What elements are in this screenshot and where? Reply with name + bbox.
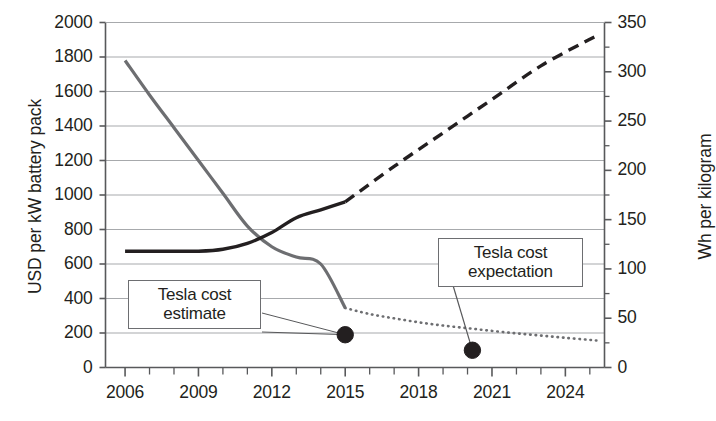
x-axis-tick-label: 2012 xyxy=(237,382,307,403)
x-axis-tick-label: 2009 xyxy=(163,382,233,403)
y-axis-left-tick-label: 0 xyxy=(33,357,93,378)
series-line-0 xyxy=(125,60,345,308)
y-axis-left-tick-label: 600 xyxy=(33,253,93,274)
y-axis-left-tick-label: 1400 xyxy=(33,115,93,136)
y-axis-right-tick-label: 150 xyxy=(618,209,678,230)
annotation-estimate-line1: Tesla cost xyxy=(136,285,253,304)
annotation-expectation-line1: Tesla cost xyxy=(446,243,575,262)
y-axis-right-tick-label: 50 xyxy=(618,307,678,328)
y-axis-right-tick-label: 0 xyxy=(618,357,678,378)
y-axis-left-tick-label: 1600 xyxy=(33,81,93,102)
data-point-tesla-cost-estimate xyxy=(337,327,353,343)
x-axis-tick-label: 2024 xyxy=(530,382,600,403)
annotation-tesla-cost-expectation: Tesla cost expectation xyxy=(438,238,583,287)
leader-line-estimate-upper xyxy=(262,313,345,335)
leader-line-expectation xyxy=(452,282,472,350)
y-axis-left-tick-label: 200 xyxy=(33,322,93,343)
x-axis-tick-label: 2021 xyxy=(457,382,527,403)
series-line-3 xyxy=(345,36,597,202)
y-axis-right-tick-label: 350 xyxy=(618,12,678,33)
y-axis-left-tick-label: 400 xyxy=(33,288,93,309)
y-axis-right-tick-label: 250 xyxy=(618,110,678,131)
y-axis-left-tick-label: 800 xyxy=(33,219,93,240)
annotation-tesla-cost-estimate: Tesla cost estimate xyxy=(128,280,261,329)
data-point-tesla-cost-expectation xyxy=(464,342,480,358)
y-axis-left-tick-label: 1000 xyxy=(33,184,93,205)
x-axis-tick-label: 2018 xyxy=(384,382,454,403)
y-axis-right-tick-label: 200 xyxy=(618,159,678,180)
x-axis-tick-label: 2006 xyxy=(90,382,160,403)
series-line-1 xyxy=(345,308,599,341)
y-axis-right-tick-label: 300 xyxy=(618,61,678,82)
y-axis-left-tick-label: 1800 xyxy=(33,46,93,67)
y-axis-left-tick-label: 1200 xyxy=(33,150,93,171)
annotation-expectation-line2: expectation xyxy=(446,262,575,281)
x-axis-tick-label: 2015 xyxy=(310,382,380,403)
annotation-estimate-line2: estimate xyxy=(136,304,253,323)
y-axis-left-tick-label: 2000 xyxy=(33,12,93,33)
y-axis-right-tick-label: 100 xyxy=(618,258,678,279)
